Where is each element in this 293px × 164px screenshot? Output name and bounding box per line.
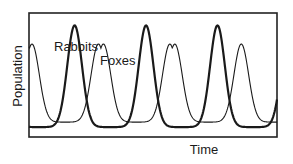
foxes-label: Foxes bbox=[100, 53, 136, 68]
y-axis-label: Population bbox=[10, 45, 25, 106]
x-axis-label: Time bbox=[190, 142, 218, 157]
rabbits-label: Rabbits bbox=[54, 39, 99, 54]
predator-prey-chart: Rabbits Foxes Population Time bbox=[0, 0, 293, 164]
